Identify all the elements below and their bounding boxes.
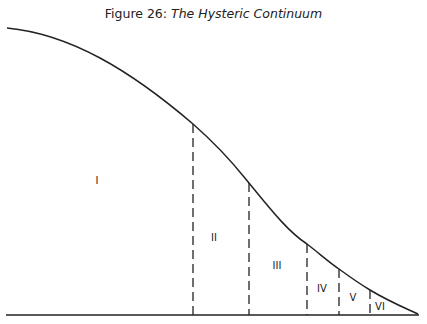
hysteric-continuum-diagram: I II III IV V VI xyxy=(0,0,427,324)
region-label-1: I xyxy=(96,175,99,186)
continuum-curve xyxy=(7,28,418,314)
region-label-6: VI xyxy=(375,301,385,312)
region-label-5: V xyxy=(350,292,357,303)
region-label-3: III xyxy=(273,260,282,271)
region-label-4: IV xyxy=(317,283,327,294)
region-label-2: II xyxy=(211,232,217,243)
